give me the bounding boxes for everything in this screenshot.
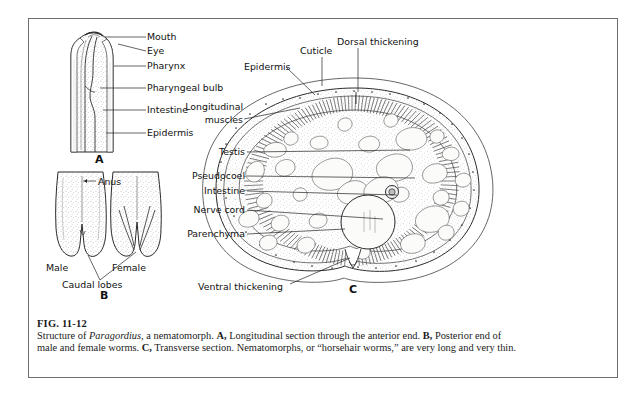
label-intestine-a: Intestine — [147, 104, 188, 115]
label-longitudinal-muscles-line2: muscles — [205, 114, 243, 125]
label-epidermis-a: Epidermis — [147, 127, 194, 138]
caption-text-a: Longitudinal section through the anterio… — [227, 330, 423, 341]
caption-tag-b: B, — [423, 330, 433, 341]
label-anus: Anus — [98, 176, 121, 187]
nerve-cord-structure — [341, 195, 395, 249]
caption-text-c: Transverse section. Nematomorphs, or “ho… — [152, 342, 516, 353]
caption-tag-a: A, — [216, 330, 226, 341]
caudal-lobe-leader-male — [88, 255, 100, 280]
label-dorsal-thickening: Dorsal thickening — [337, 36, 419, 47]
label-longitudinal-muscles-line1: Longitudinal — [185, 101, 243, 112]
figure-number: FIG. 11-12 — [37, 318, 517, 329]
panel-letter-a: A — [95, 153, 104, 166]
label-male: Male — [46, 262, 68, 273]
figure-caption: FIG. 11-12 Structure of Paragordius, a n… — [37, 318, 517, 355]
caption-genus: Paragordius, — [89, 330, 144, 341]
panel-letter-c: C — [349, 283, 357, 296]
label-pharyngeal-bulb: Pharyngeal bulb — [147, 82, 223, 93]
label-caudal-lobes: Caudal lobes — [62, 279, 123, 290]
panel-c-drawing — [203, 78, 493, 282]
label-pharynx: Pharynx — [147, 60, 186, 71]
label-intestine-c: Intestine — [204, 185, 245, 196]
caption-text: Structure of Paragordius, a nematomorph.… — [37, 330, 517, 355]
label-eye: Eye — [147, 45, 164, 56]
label-parenchyma: Parenchyma — [187, 228, 245, 239]
label-mouth: Mouth — [147, 31, 176, 42]
label-pseudocoel: Pseudocoel — [192, 170, 245, 181]
label-cuticle: Cuticle — [300, 45, 333, 56]
caption-lead: Structure of — [37, 330, 89, 341]
panel-letter-b: B — [100, 289, 108, 302]
label-nerve-cord: Nerve cord — [194, 204, 246, 215]
caption-tag-c: C, — [142, 342, 152, 353]
panel-a-drawing — [71, 32, 113, 152]
caption-after-genus: a nematomorph. — [144, 330, 217, 341]
label-epidermis-c: Epidermis — [244, 61, 291, 72]
label-testis: Testis — [218, 146, 245, 157]
label-ventral-thickening: Ventral thickening — [198, 281, 283, 292]
label-female: Female — [112, 262, 146, 273]
